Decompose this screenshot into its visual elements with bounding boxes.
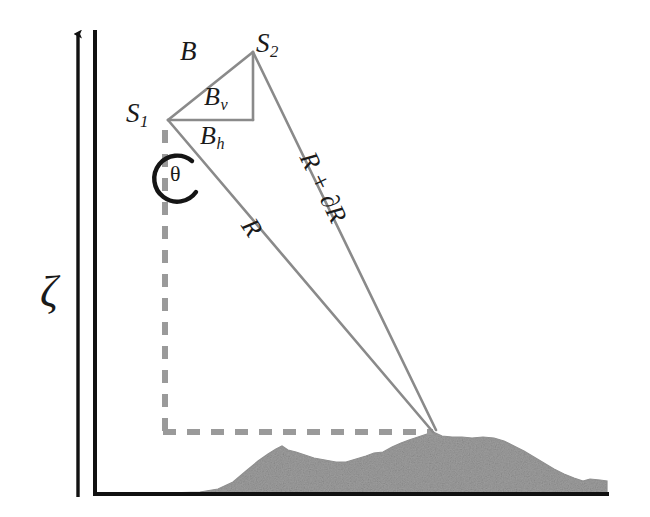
figure-canvas: S1 S2 B Bv Bh θ R R + ∂R ζ	[0, 0, 650, 517]
baseline-label-bv: Bv	[204, 84, 228, 113]
look-angle-label-theta: θ	[170, 163, 181, 185]
baseline-label-bh: Bh	[200, 123, 224, 152]
baseline-label-b: B	[180, 38, 197, 65]
nadir-reference-lines	[163, 130, 433, 432]
satellite-label-s2: S2	[256, 30, 278, 61]
terrain-profile	[163, 432, 607, 493]
satellite-label-s1: S1	[126, 100, 148, 131]
vertical-axis-label-zeta: ζ	[40, 270, 58, 314]
geometry-diagram	[0, 0, 650, 517]
axis-frame	[78, 30, 95, 497]
ray-R-plus-dR	[253, 52, 436, 430]
